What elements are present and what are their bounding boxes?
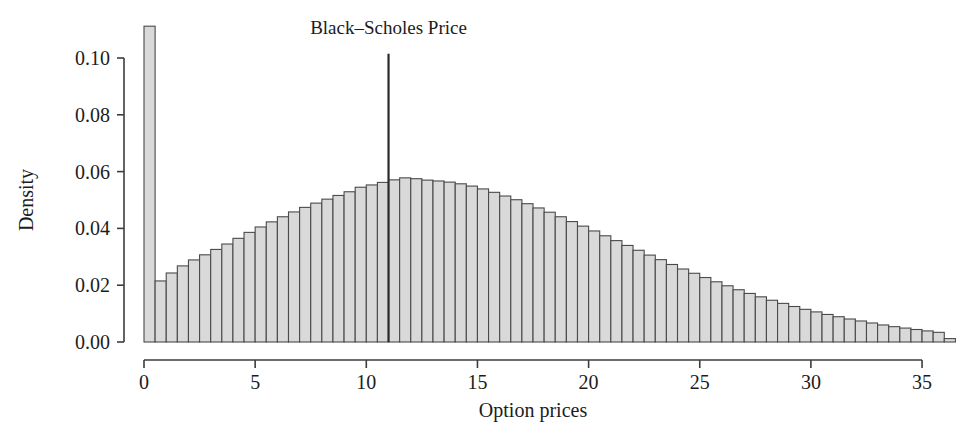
histogram-plot: Black–Scholes Price 0.000.020.040.060.08… (0, 0, 977, 445)
histogram-bar (300, 207, 311, 342)
histogram-bar (255, 227, 266, 342)
x-axis-tick-label: 5 (250, 371, 260, 393)
histogram-bar (511, 200, 522, 342)
histogram-bar (700, 278, 711, 342)
histogram-bar (477, 189, 488, 342)
histogram-bar (577, 226, 588, 342)
histogram-bar (889, 327, 900, 342)
histogram-bar (266, 222, 277, 342)
histogram-bar (911, 330, 922, 343)
histogram-bar (600, 236, 611, 342)
histogram-bars (144, 26, 955, 342)
histogram-bar (444, 182, 455, 342)
histogram-bar (144, 26, 155, 342)
histogram-bar (944, 339, 955, 342)
histogram-bar (411, 179, 422, 342)
x-axis-tick-label: 0 (139, 371, 149, 393)
histogram-bar (333, 195, 344, 342)
histogram-bar (678, 269, 689, 342)
histogram-bar (878, 325, 889, 342)
histogram-bar (778, 303, 789, 342)
histogram-bar (555, 217, 566, 342)
x-axis-tick-label: 20 (579, 371, 599, 393)
histogram-bar (466, 186, 477, 342)
x-axis-tick-label: 10 (356, 371, 376, 393)
histogram-bar (689, 273, 700, 342)
histogram-bar (377, 182, 388, 342)
histogram-bar (277, 217, 288, 342)
histogram-bar (322, 199, 333, 342)
histogram-bar (289, 212, 300, 342)
x-axis-tick-label: 25 (690, 371, 710, 393)
histogram-bar (188, 260, 199, 342)
y-axis-tick-label: 0.10 (75, 47, 110, 69)
histogram-bar (622, 245, 633, 342)
histogram-bar (166, 273, 177, 342)
histogram-bar (244, 232, 255, 342)
histogram-bar (400, 178, 411, 342)
histogram-bar (800, 309, 811, 342)
histogram-bar (611, 241, 622, 342)
histogram-bar (789, 307, 800, 343)
histogram-bar (222, 244, 233, 342)
histogram-bar (489, 192, 500, 342)
histogram-bar (311, 203, 322, 342)
histogram-bar (811, 312, 822, 342)
histogram-bar (455, 184, 466, 342)
histogram-bar (866, 323, 877, 342)
histogram-bar (211, 249, 222, 342)
histogram-bar (422, 180, 433, 342)
histogram-bar (733, 290, 744, 342)
x-axis-tick-label: 15 (467, 371, 487, 393)
histogram-bar (855, 321, 866, 342)
histogram-bar (500, 196, 511, 342)
y-axis-tick-label: 0.00 (75, 331, 110, 353)
x-axis-title: Option prices (479, 399, 588, 422)
histogram-bar (844, 319, 855, 342)
histogram-bar (177, 266, 188, 342)
histogram-bar (389, 180, 400, 342)
histogram-bar (544, 212, 555, 342)
histogram-bar (744, 293, 755, 342)
histogram-bar (344, 192, 355, 342)
x-axis-tick-label: 35 (912, 371, 932, 393)
histogram-bar (666, 264, 677, 342)
histogram-bar (589, 231, 600, 342)
x-axis-tick-label: 30 (801, 371, 821, 393)
histogram-bar (522, 204, 533, 342)
histogram-bar (922, 331, 933, 342)
y-axis-tick-label: 0.06 (75, 161, 110, 183)
histogram-bar (833, 317, 844, 342)
histogram-bar (200, 255, 211, 342)
y-axis-title: Density (15, 169, 38, 231)
histogram-bar (233, 238, 244, 342)
histogram-bar (822, 314, 833, 342)
histogram-figure: Black–Scholes Price 0.000.020.040.060.08… (0, 0, 977, 445)
histogram-bar (755, 297, 766, 342)
histogram-bar (933, 332, 944, 342)
y-axis-tick-label: 0.08 (75, 104, 110, 126)
histogram-bar (155, 281, 166, 342)
y-axis-tick-label: 0.02 (75, 274, 110, 296)
histogram-bar (355, 187, 366, 342)
histogram-bar (433, 181, 444, 342)
histogram-bar (366, 185, 377, 342)
histogram-bar (900, 328, 911, 342)
histogram-bar (633, 250, 644, 342)
histogram-bar (655, 260, 666, 342)
histogram-bar (711, 282, 722, 342)
y-axis-tick-label: 0.04 (75, 217, 110, 239)
histogram-bar (566, 222, 577, 342)
histogram-bar (722, 286, 733, 342)
histogram-bar (644, 255, 655, 342)
histogram-bar (766, 300, 777, 342)
black-scholes-price-label: Black–Scholes Price (310, 17, 467, 38)
histogram-bar (533, 208, 544, 342)
